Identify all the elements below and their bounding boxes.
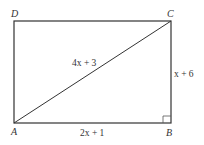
- vertex-label-b: B: [166, 127, 172, 138]
- rectangle-diagram: D C A B 4x + 3 2x + 1 x + 6: [0, 0, 204, 145]
- diagonal-ac: [14, 21, 171, 123]
- diagonal-length-label: 4x + 3: [72, 58, 97, 68]
- side-bc-length-label: x + 6: [174, 69, 194, 79]
- right-angle-marker-b: [163, 116, 171, 123]
- vertex-label-d: D: [10, 8, 19, 19]
- vertex-label-c: C: [167, 8, 174, 19]
- vertex-label-a: A: [10, 126, 18, 137]
- side-ab-length-label: 2x + 1: [80, 128, 105, 138]
